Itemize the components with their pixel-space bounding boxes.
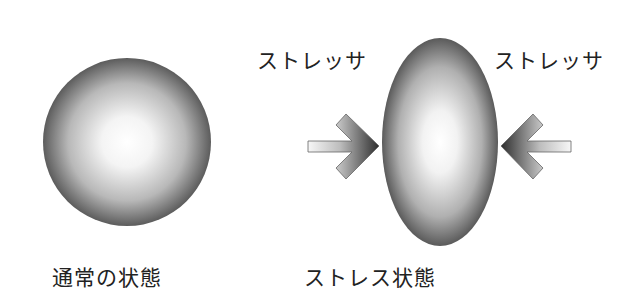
stressor-label-right: ストレッサ bbox=[494, 44, 604, 74]
left-stressor-arrow-icon bbox=[308, 114, 379, 179]
stress-state-ellipse bbox=[382, 38, 498, 246]
stress-state-label: ストレス状態 bbox=[304, 261, 436, 291]
stressor-label-left: ストレッサ bbox=[257, 44, 367, 74]
normal-state-label: 通常の状態 bbox=[52, 261, 162, 291]
right-stressor-arrow-icon bbox=[501, 114, 571, 179]
normal-state-circle bbox=[43, 58, 211, 226]
